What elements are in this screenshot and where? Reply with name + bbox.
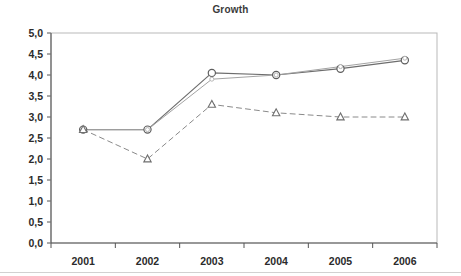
y-tick-label: 2,5	[28, 132, 43, 144]
y-axis-tick-labels: 0,00,51,01,52,02,53,03,54,04,55,0	[28, 27, 43, 249]
y-tick-label: 3,5	[28, 90, 43, 102]
data-point-marker-triangle	[208, 100, 215, 107]
data-point-marker-circle	[208, 69, 215, 76]
y-tick-label: 4,5	[28, 48, 43, 60]
data-point-marker-faint	[403, 56, 407, 60]
plot-canvas: 0,00,51,01,52,02,53,03,54,04,55,0 200120…	[0, 0, 461, 276]
x-tick-label: 2004	[264, 255, 288, 267]
data-point-marker-triangle	[144, 155, 151, 162]
series-markers-group	[79, 56, 408, 162]
data-point-marker-faint	[274, 73, 278, 77]
y-tick-label: 1,0	[28, 195, 43, 207]
x-axis-tick-marks	[51, 243, 437, 248]
series-line-series-3	[83, 104, 405, 159]
plot-area-rect	[51, 33, 437, 243]
x-tick-label: 2006	[393, 255, 417, 267]
x-tick-label: 2002	[136, 255, 160, 267]
y-tick-label: 0,0	[28, 237, 43, 249]
x-tick-label: 2005	[329, 255, 353, 267]
x-tick-label: 2001	[71, 255, 95, 267]
y-tick-label: 1,5	[28, 174, 43, 186]
data-point-marker-faint	[210, 77, 214, 81]
data-point-marker-triangle	[401, 113, 408, 120]
series-line-series-1	[83, 60, 405, 129]
data-point-marker-faint	[339, 65, 343, 69]
y-axis-tick-marks	[47, 33, 51, 243]
growth-line-chart: Growth 0,00,51,01,52,02,53,03,54,04,55,0…	[0, 0, 461, 276]
data-point-marker-faint	[146, 128, 150, 132]
y-tick-label: 2,0	[28, 153, 43, 165]
y-tick-label: 0,5	[28, 216, 43, 228]
x-tick-label: 2003	[200, 255, 224, 267]
y-tick-label: 3,0	[28, 111, 43, 123]
x-axis-tick-labels: 200120022003200420052006	[71, 255, 416, 267]
series-line-series-2	[83, 58, 405, 129]
series-lines-group	[83, 58, 405, 159]
plot-border	[51, 33, 437, 243]
y-tick-label: 4,0	[28, 69, 43, 81]
y-tick-label: 5,0	[28, 27, 43, 39]
